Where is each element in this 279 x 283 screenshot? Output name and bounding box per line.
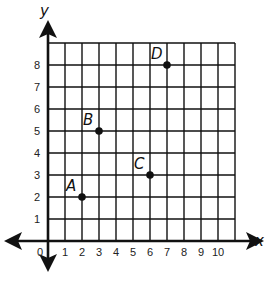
x-tick-label: 9 [198, 246, 204, 258]
x-tick-label: 6 [147, 246, 153, 258]
x-tick-label: 7 [164, 246, 170, 258]
point-d [163, 61, 171, 69]
x-axis-label: x [254, 232, 264, 250]
x-tick-label: 1 [62, 246, 68, 258]
point-label-b: B [83, 111, 93, 129]
point-label-a: A [65, 177, 76, 195]
point-b [95, 127, 103, 135]
grid [48, 43, 235, 241]
coordinate-plane: 1234567891012345678 ABCD x y 0 [0, 0, 279, 283]
origin-label: 0 [37, 246, 43, 258]
point-label-d: D [151, 45, 163, 63]
data-points: ABCD [65, 45, 171, 201]
y-tick-label: 6 [34, 103, 40, 115]
x-tick-label: 8 [181, 246, 187, 258]
y-tick-label: 1 [34, 213, 40, 225]
point-a [78, 193, 86, 201]
y-tick-label: 8 [34, 59, 40, 71]
x-tick-label: 3 [96, 246, 102, 258]
tick-labels: 1234567891012345678 [34, 59, 224, 258]
x-tick-label: 10 [212, 246, 224, 258]
y-tick-label: 7 [34, 81, 40, 93]
y-tick-label: 3 [34, 169, 40, 181]
y-axis-label: y [39, 2, 50, 20]
y-tick-label: 2 [34, 191, 40, 203]
y-tick-label: 4 [34, 147, 40, 159]
x-tick-label: 2 [79, 246, 85, 258]
point-label-c: C [134, 155, 145, 173]
point-c [146, 171, 154, 179]
x-tick-label: 4 [113, 246, 119, 258]
axes [4, 20, 264, 272]
x-tick-label: 5 [130, 246, 136, 258]
y-tick-label: 5 [34, 125, 40, 137]
